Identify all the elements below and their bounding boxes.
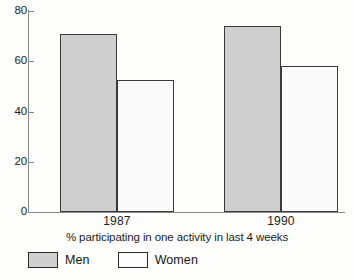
legend-label-men: Men bbox=[65, 253, 90, 267]
bar-men-1987 bbox=[60, 34, 117, 212]
x-group-label-1990: 1990 bbox=[251, 214, 311, 228]
bar-men-1990 bbox=[224, 26, 281, 212]
legend-label-women: Women bbox=[155, 253, 198, 267]
men-swatch-icon bbox=[28, 252, 58, 268]
women-swatch-icon bbox=[118, 252, 148, 268]
legend: Men Women bbox=[28, 252, 198, 268]
legend-entry-women: Women bbox=[118, 252, 198, 268]
bar-women-1990 bbox=[281, 66, 338, 212]
bars-layer bbox=[0, 0, 354, 213]
x-axis-caption: % participating in one activity in last … bbox=[0, 231, 354, 243]
legend-entry-men: Men bbox=[28, 252, 90, 268]
x-group-label-1987: 1987 bbox=[87, 214, 147, 228]
bar-women-1987 bbox=[117, 80, 174, 212]
bar-chart: 0 20 40 60 80 1987 1990 % participating … bbox=[0, 0, 354, 280]
